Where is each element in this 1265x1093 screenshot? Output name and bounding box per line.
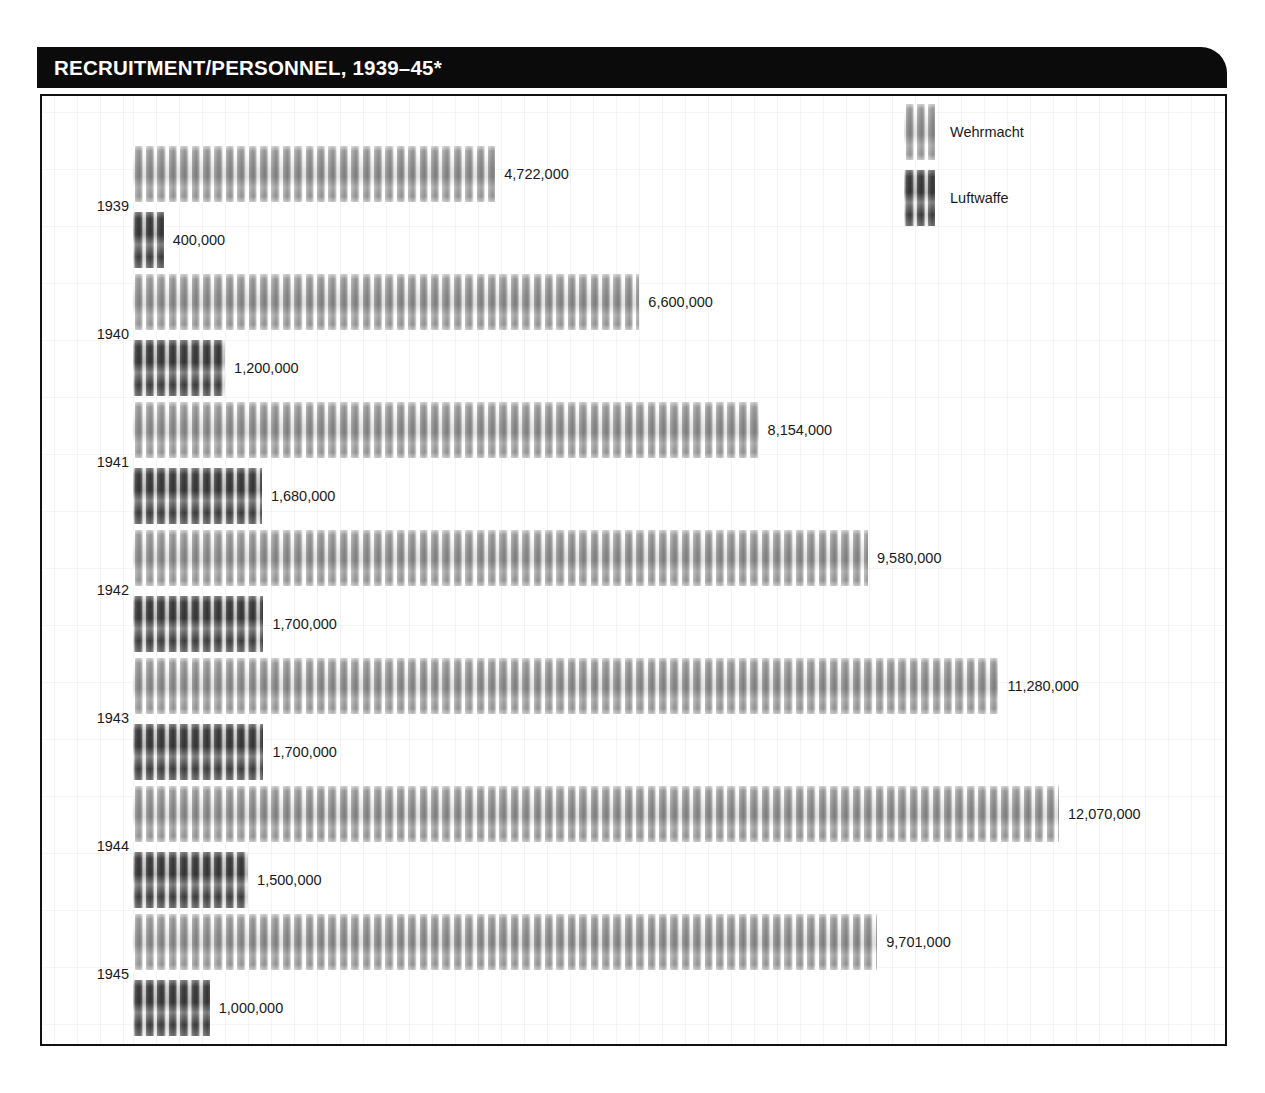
luftwaffe-bar-value: 1,000,000: [219, 1000, 284, 1016]
luftwaffe-bar-row: 1,500,000: [133, 852, 1224, 908]
wehrmacht-bar-value: 4,722,000: [504, 166, 569, 182]
luftwaffe-bar-value: 1,500,000: [257, 872, 322, 888]
wehrmacht-bar-row: 8,154,000: [133, 402, 1224, 458]
luftwaffe-bar[interactable]: [133, 340, 225, 396]
year-group-1940: 19406,600,0001,200,000: [42, 270, 1225, 398]
year-group-1939: 19394,722,000400,000: [42, 142, 1225, 270]
chart-header-bar: RECRUITMENT/PERSONNEL, 1939–45*: [37, 47, 1227, 88]
luftwaffe-bar[interactable]: [133, 596, 263, 652]
luftwaffe-bar-value: 1,200,000: [234, 360, 299, 376]
luftwaffe-bar-value: 400,000: [173, 232, 225, 248]
wehrmacht-bar-row: 4,722,000: [133, 146, 1224, 202]
year-group-1945: 19459,701,0001,000,000: [42, 910, 1225, 1038]
luftwaffe-bar-row: 400,000: [133, 212, 1224, 268]
luftwaffe-bar[interactable]: [133, 852, 248, 908]
luftwaffe-bar[interactable]: [133, 212, 164, 268]
luftwaffe-bar-row: 1,680,000: [133, 468, 1224, 524]
year-label: 1940: [42, 326, 129, 342]
year-label: 1943: [42, 710, 129, 726]
wehrmacht-bar[interactable]: [133, 914, 877, 970]
wehrmacht-swatch: [904, 104, 935, 160]
wehrmacht-bar[interactable]: [133, 786, 1059, 842]
wehrmacht-bar-row: 11,280,000: [133, 658, 1224, 714]
year-group-1944: 194412,070,0001,500,000: [42, 782, 1225, 910]
wehrmacht-bar-row: 9,580,000: [133, 530, 1224, 586]
wehrmacht-bar[interactable]: [133, 658, 998, 714]
year-label: 1942: [42, 582, 129, 598]
wehrmacht-bar[interactable]: [133, 274, 639, 330]
wehrmacht-bar-value: 11,280,000: [1007, 678, 1079, 694]
wehrmacht-bar-row: 9,701,000: [133, 914, 1224, 970]
wehrmacht-bar-value: 9,580,000: [877, 550, 942, 566]
wehrmacht-bar-value: 12,070,000: [1068, 806, 1141, 822]
luftwaffe-bar-value: 1,700,000: [272, 616, 337, 632]
luftwaffe-bar-row: 1,200,000: [133, 340, 1224, 396]
wehrmacht-bar-value: 6,600,000: [648, 294, 713, 310]
year-group-1942: 19429,580,0001,700,000: [42, 526, 1225, 654]
wehrmacht-bar-row: 6,600,000: [133, 274, 1224, 330]
wehrmacht-bar-row: 12,070,000: [133, 786, 1224, 842]
legend-label: Luftwaffe: [950, 190, 1009, 206]
wehrmacht-bar[interactable]: [133, 530, 868, 586]
luftwaffe-bar-row: 1,700,000: [133, 724, 1224, 780]
wehrmacht-bar[interactable]: [133, 146, 495, 202]
chart-page: RECRUITMENT/PERSONNEL, 1939–45* 19394,72…: [0, 0, 1265, 1093]
luftwaffe-bar[interactable]: [133, 980, 210, 1036]
chart-frame: 19394,722,000400,00019406,600,0001,200,0…: [40, 94, 1227, 1046]
luftwaffe-bar[interactable]: [133, 724, 263, 780]
luftwaffe-bar-value: 1,700,000: [272, 744, 337, 760]
year-group-1943: 194311,280,0001,700,000: [42, 654, 1225, 782]
page-title: RECRUITMENT/PERSONNEL, 1939–45*: [54, 55, 442, 79]
year-label: 1944: [42, 838, 129, 854]
luftwaffe-bar[interactable]: [133, 468, 262, 524]
wehrmacht-bar[interactable]: [133, 402, 759, 458]
luftwaffe-swatch: [904, 170, 935, 226]
chart-plot-area: 19394,722,000400,00019406,600,0001,200,0…: [42, 96, 1225, 1044]
wehrmacht-bar-value: 9,701,000: [886, 934, 951, 950]
year-label: 1939: [42, 198, 129, 214]
year-label: 1941: [42, 454, 129, 470]
luftwaffe-bar-row: 1,700,000: [133, 596, 1224, 652]
wehrmacht-bar-value: 8,154,000: [768, 422, 833, 438]
year-group-1941: 19418,154,0001,680,000: [42, 398, 1225, 526]
year-label: 1945: [42, 966, 129, 982]
luftwaffe-bar-row: 1,000,000: [133, 980, 1224, 1036]
legend-label: Wehrmacht: [950, 124, 1024, 140]
luftwaffe-bar-value: 1,680,000: [271, 488, 336, 504]
